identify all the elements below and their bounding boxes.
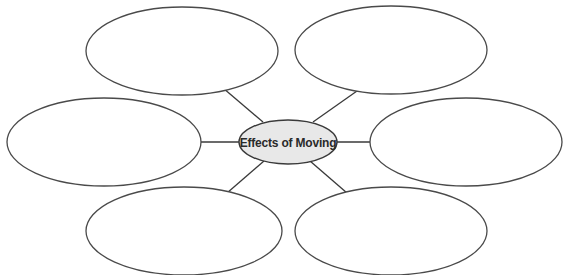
center-label: Effects of Moving: [240, 136, 337, 150]
effects-of-moving-web-diagram: Effects of Moving: [0, 0, 566, 275]
bubble-bottom-right[interactable]: [295, 187, 487, 275]
bubble-top-right[interactable]: [295, 6, 487, 94]
bubble-bottom-left[interactable]: [86, 187, 282, 275]
bubble-right[interactable]: [370, 98, 562, 186]
bubble-top-left[interactable]: [86, 7, 278, 95]
connector-top-right: [313, 91, 357, 122]
connector-bottom-right: [310, 161, 347, 193]
bubble-left[interactable]: [7, 98, 201, 186]
connector-bottom-left: [227, 161, 264, 193]
connector-top-left: [223, 88, 263, 122]
